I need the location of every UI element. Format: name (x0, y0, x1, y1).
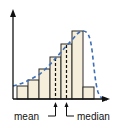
mean-label: mean (14, 111, 39, 122)
median-arrow-icon (65, 102, 69, 107)
mean-arrow-icon (54, 102, 58, 107)
bar-7 (83, 87, 94, 99)
median-pointer (67, 107, 75, 116)
x-axis-arrow-icon (102, 96, 110, 102)
bar-6 (72, 31, 83, 99)
y-axis-arrow-icon (10, 9, 16, 17)
mean-pointer (48, 107, 56, 116)
histogram-diagram: mean median (0, 0, 126, 128)
median-label: median (77, 111, 110, 122)
bar-1 (17, 86, 28, 99)
bar-2 (28, 80, 39, 99)
